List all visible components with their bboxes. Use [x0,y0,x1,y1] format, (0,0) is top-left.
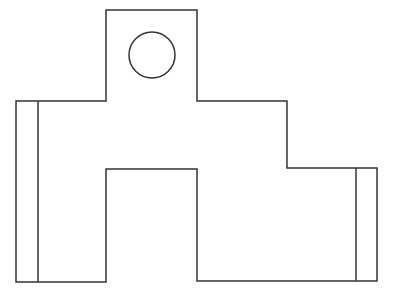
part-drawing [0,0,395,300]
drawing-canvas [0,0,395,300]
circular-hole [129,32,175,78]
part-outline [16,10,377,282]
